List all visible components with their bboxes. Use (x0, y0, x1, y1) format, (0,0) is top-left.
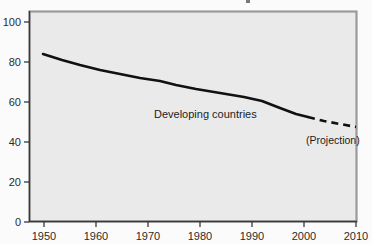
x-tick-label-1990: 1990 (240, 230, 264, 242)
cropped-title-fragment (246, 0, 250, 3)
y-tick-label-20: 20 (9, 176, 21, 188)
y-tick-label-60: 60 (9, 96, 21, 108)
projection-annotation-label: (Projection) (306, 134, 360, 146)
x-tick-label-2010: 2010 (344, 230, 368, 242)
x-tick-label-2000: 2000 (292, 230, 316, 242)
y-tick-label-0: 0 (15, 216, 21, 228)
y-tick-label-80: 80 (9, 56, 21, 68)
series-annotation-label: Developing countries (154, 108, 257, 120)
x-tick-label-1950: 1950 (32, 230, 56, 242)
x-tick-label-1980: 1980 (188, 230, 212, 242)
y-tick-label-100: 100 (3, 16, 21, 28)
line-chart: 100 80 60 40 20 0 1950 1960 1970 1980 19… (0, 0, 372, 244)
x-tick-label-1970: 1970 (136, 230, 160, 242)
y-tick-label-40: 40 (9, 136, 21, 148)
chart-figure: 100 80 60 40 20 0 1950 1960 1970 1980 19… (0, 0, 372, 244)
x-tick-label-1960: 1960 (84, 230, 108, 242)
